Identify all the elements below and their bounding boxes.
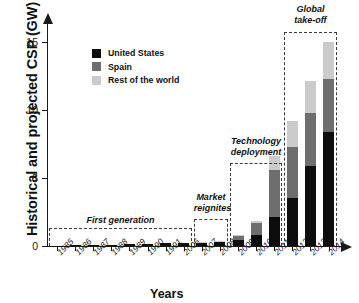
legend-label-rest-of-the-world: Rest of the world <box>108 75 179 85</box>
legend-item: Spain <box>92 62 179 72</box>
y-tick <box>42 42 48 43</box>
legend-item: United States <box>92 48 179 58</box>
y-tick-label: 5 <box>12 172 38 184</box>
legend-label-united-states: United States <box>108 48 164 58</box>
y-tick-label: 10 <box>12 104 38 116</box>
chart-legend: United States Spain Rest of the world <box>92 48 179 89</box>
y-axis-line <box>47 22 48 247</box>
y-axis-label: Historical and projected CSP (GW) <box>24 16 40 236</box>
legend-label-spain: Spain <box>108 62 132 72</box>
annotation-label-first-generation: First generation <box>49 215 192 226</box>
annotation-box-global-take-off <box>284 32 336 246</box>
annotation-label-market-reignites: Market reignites <box>194 192 228 213</box>
y-tick <box>42 246 48 247</box>
x-axis-label: Years <box>150 287 183 301</box>
legend-swatch-spain <box>92 62 101 71</box>
csp-capacity-stacked-bar-chart: Historical and projected CSP (GW) Years … <box>0 0 359 303</box>
annotation-box-market-reignites <box>194 219 228 246</box>
annotation-label-technology-deployment: Technology deployment <box>230 136 282 157</box>
legend-swatch-united-states <box>92 49 101 58</box>
y-tick <box>42 178 48 179</box>
annotation-label-global-take-off: Global take-off <box>284 4 336 25</box>
legend-swatch-rest-of-the-world <box>92 76 101 85</box>
y-tick <box>42 110 48 111</box>
y-tick-label: 0 <box>12 240 38 252</box>
y-axis-arrow-icon <box>43 13 53 24</box>
legend-item: Rest of the world <box>92 75 179 85</box>
y-tick-label: 15 <box>12 36 38 48</box>
annotation-box-first-generation <box>49 228 192 246</box>
annotation-box-technology-deployment <box>230 163 282 246</box>
